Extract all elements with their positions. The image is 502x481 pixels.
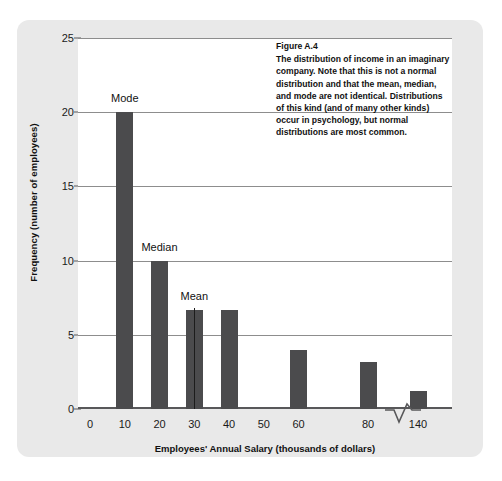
x-tick-label: 10 bbox=[119, 418, 131, 430]
x-tick-label: 0 bbox=[87, 418, 93, 430]
y-tick-label: 15 bbox=[52, 180, 74, 192]
figure-root: Frequency (number of employees) 05101520… bbox=[0, 0, 502, 481]
x-tick-label: 30 bbox=[188, 418, 200, 430]
figure-caption-body: The distribution of income in an imagina… bbox=[276, 53, 452, 138]
x-axis-title: Employees' Annual Salary (thousands of d… bbox=[78, 443, 452, 454]
bar bbox=[360, 362, 377, 409]
x-tick-label: 40 bbox=[223, 418, 235, 430]
x-tick-label: 20 bbox=[153, 418, 165, 430]
y-tick-label: 10 bbox=[52, 255, 74, 267]
y-tick-label: 0 bbox=[52, 403, 74, 415]
gridline bbox=[78, 261, 452, 262]
y-axis: 0510152025 bbox=[48, 38, 74, 409]
bar-annotation-label: Mode bbox=[111, 92, 139, 104]
y-tick-label: 25 bbox=[52, 32, 74, 44]
bar bbox=[290, 350, 307, 409]
gridline bbox=[78, 38, 452, 39]
gridline bbox=[78, 335, 452, 336]
y-tick-label: 20 bbox=[52, 106, 74, 118]
figure-caption: Figure A.4 The distribution of income in… bbox=[276, 40, 452, 139]
x-tick-label: 50 bbox=[258, 418, 270, 430]
bar bbox=[116, 112, 133, 409]
x-tick-label: 60 bbox=[292, 418, 304, 430]
y-axis-title: Frequency (number of employees) bbox=[28, 108, 39, 298]
bar bbox=[151, 261, 168, 409]
mean-marker-line bbox=[194, 308, 195, 409]
axis-break-zigzag-icon bbox=[385, 402, 421, 424]
y-tick-label: 5 bbox=[52, 329, 74, 341]
x-tick-label: 80 bbox=[362, 418, 374, 430]
figure-caption-title: Figure A.4 bbox=[276, 40, 452, 52]
bar-annotation-label: Median bbox=[141, 241, 177, 253]
bar bbox=[221, 310, 238, 409]
gridline bbox=[78, 186, 452, 187]
bar-annotation-label: Mean bbox=[180, 290, 208, 302]
